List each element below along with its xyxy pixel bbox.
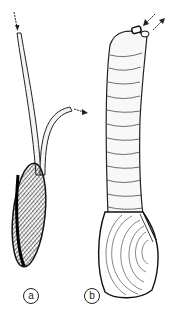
arrow-in-icon <box>143 14 155 26</box>
illustration <box>0 0 182 317</box>
specimen-b <box>99 14 165 298</box>
arrow-out-icon <box>74 109 88 115</box>
siphon-inhalant-a <box>17 33 41 175</box>
arrow-out-icon <box>153 18 165 30</box>
specimen-a <box>8 12 88 268</box>
panel-label-a: a <box>23 288 39 304</box>
panel-label-b: b <box>84 288 100 304</box>
arrow-in-icon <box>14 12 20 31</box>
siphon-exhalant-a <box>40 107 72 175</box>
siphon-fused-b <box>106 31 147 215</box>
